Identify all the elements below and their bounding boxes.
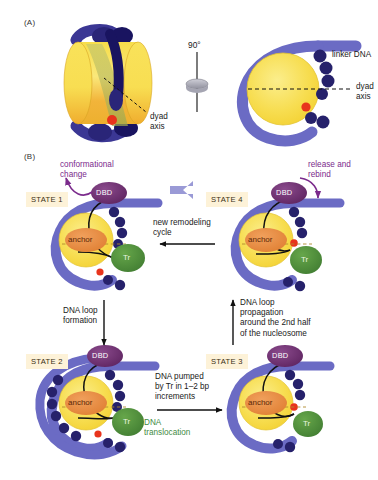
panel-b-tag: (B) <box>24 152 35 161</box>
state1-anchor-text: anchor <box>68 235 92 245</box>
cycle-lilac-arrow <box>170 181 193 199</box>
state1-label: STATE 1 <box>26 192 68 207</box>
dna-loop-formation-label: DNA loop formation <box>63 306 98 326</box>
dna-loop-propagation-label: DNA loop propagation around the 2nd half… <box>240 298 311 339</box>
dyad-marker-red-top <box>301 102 310 111</box>
conformational-change-label: conformational change <box>60 160 114 180</box>
new-remodeling-cycle-label: new remodeling cycle <box>153 218 211 238</box>
nucleosome-top-view <box>242 46 356 141</box>
state3-dbd-text: DBD <box>272 351 289 361</box>
state4-anchor-text: anchor <box>248 235 272 245</box>
rotation-angle-label: 90° <box>188 40 201 50</box>
release-rebind-label: release and rebind <box>308 160 351 180</box>
state2-dbd-text: DBD <box>92 351 109 361</box>
dyad-marker-red <box>107 115 117 125</box>
dyad-axis-label-right: dyad axis <box>356 82 374 102</box>
state4-label: STATE 4 <box>206 192 248 207</box>
state1-dbd-text: DBD <box>96 188 113 198</box>
conformational-change-arrow <box>66 178 92 195</box>
state3-anchor-text: anchor <box>248 398 272 408</box>
state1-tr-text: Tr <box>123 253 130 263</box>
state4-tr-text: Tr <box>301 255 308 265</box>
nucleosome-side-view <box>64 27 152 141</box>
linker-dna-label: linker DNA <box>332 50 371 60</box>
state2-label: STATE 2 <box>26 354 68 369</box>
dna-translocation-label: DNA translocation <box>144 418 190 438</box>
state2-tr-text: Tr <box>123 417 130 427</box>
state4-dbd-text: DBD <box>276 188 293 198</box>
dna-pumped-label: DNA pumped by Tr in 1–2 bp increments <box>155 372 209 403</box>
dyad-axis-label-left: dyad axis <box>150 112 168 132</box>
rotation-symbol <box>186 52 208 112</box>
state2-anchor-text: anchor <box>68 398 92 408</box>
state3-label: STATE 3 <box>206 354 248 369</box>
state3-tr-text: Tr <box>303 419 310 429</box>
figure-canvas <box>0 0 378 480</box>
